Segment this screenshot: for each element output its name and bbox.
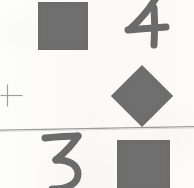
numeral-four-glyph <box>116 0 172 50</box>
numeral-three-glyph <box>38 130 90 188</box>
horizontal-divider-rule <box>0 118 194 128</box>
plus-crosshair-icon <box>0 84 23 107</box>
square-shape-top-left <box>38 2 88 50</box>
scanned-sheet <box>0 0 194 188</box>
square-shape-bottom-right <box>117 140 170 188</box>
